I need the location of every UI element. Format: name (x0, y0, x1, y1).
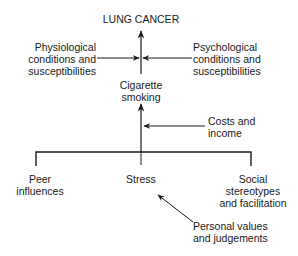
node-psychological: Psychological conditions and susceptibil… (193, 41, 283, 77)
node-costs-income: Costs and income (208, 115, 278, 139)
node-peer-influences: Peer influences (10, 173, 70, 197)
node-lung-cancer: LUNG CANCER (101, 13, 181, 25)
node-cigarette-smoking: Cigarette smoking (111, 79, 171, 103)
factors-bracket (36, 152, 251, 166)
node-physiological: Physiological conditions and susceptibil… (20, 41, 96, 77)
node-social-stereotypes: Social stereotypes and facilitation (210, 173, 296, 209)
node-stress: Stress (116, 173, 166, 185)
arrow-personal-values (158, 195, 193, 222)
node-personal-values: Personal values and judgements (193, 220, 293, 244)
